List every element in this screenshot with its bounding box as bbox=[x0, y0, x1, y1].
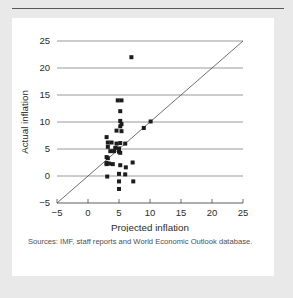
y-axis-title: Actual inflation bbox=[19, 90, 30, 154]
y-tick-label-5: 5 bbox=[45, 143, 50, 154]
source-note-text: Sources: IMF, staff reports and World Ec… bbox=[28, 237, 252, 246]
y-tick-label-25: 25 bbox=[39, 35, 50, 46]
x-tick-label-10: 10 bbox=[145, 207, 156, 218]
source-note: Sources: IMF, staff reports and World Ec… bbox=[28, 236, 264, 247]
chart-svg: −50510152025−50510152025Projected inflat… bbox=[12, 18, 274, 232]
data-point bbox=[123, 172, 127, 176]
data-point bbox=[118, 109, 122, 113]
data-point bbox=[118, 124, 122, 128]
data-point bbox=[124, 165, 128, 169]
y-tick-label-0: 0 bbox=[45, 170, 50, 181]
data-point bbox=[112, 149, 116, 153]
data-point bbox=[107, 162, 111, 166]
data-point bbox=[119, 98, 123, 102]
data-point bbox=[115, 129, 119, 133]
data-point bbox=[118, 151, 122, 155]
data-point bbox=[131, 161, 135, 165]
data-point bbox=[119, 129, 123, 133]
data-point bbox=[142, 126, 146, 130]
data-point bbox=[149, 119, 153, 123]
figure-panel: −50510152025−50510152025Projected inflat… bbox=[12, 18, 274, 276]
top-rule-divider bbox=[12, 8, 284, 9]
y-tick-label-15: 15 bbox=[39, 89, 50, 100]
data-point bbox=[115, 142, 119, 146]
y-tick-label-20: 20 bbox=[39, 62, 50, 73]
page-background: −50510152025−50510152025Projected inflat… bbox=[0, 0, 293, 298]
x-tick-label-20: 20 bbox=[207, 207, 218, 218]
x-tick-label-25: 25 bbox=[238, 207, 249, 218]
data-point bbox=[117, 179, 121, 183]
x-axis-title: Projected inflation bbox=[111, 222, 189, 232]
data-point bbox=[110, 141, 114, 145]
data-point bbox=[117, 187, 121, 191]
data-point bbox=[106, 156, 110, 160]
data-point bbox=[111, 162, 115, 166]
x-tick-label-5: 5 bbox=[116, 207, 121, 218]
data-point bbox=[131, 179, 135, 183]
x-tick-label-0: 0 bbox=[85, 207, 90, 218]
x-tick-label--5: −5 bbox=[52, 207, 63, 218]
data-point bbox=[105, 135, 109, 139]
data-point bbox=[118, 163, 122, 167]
y-tick-label--5: −5 bbox=[39, 197, 50, 208]
data-point bbox=[118, 141, 122, 145]
data-point bbox=[116, 98, 120, 102]
data-point bbox=[108, 149, 112, 153]
data-point bbox=[106, 145, 110, 149]
data-point bbox=[117, 172, 121, 176]
data-point bbox=[123, 142, 127, 146]
data-point bbox=[105, 175, 109, 179]
data-point bbox=[106, 141, 110, 145]
data-point bbox=[129, 55, 133, 59]
x-tick-label-15: 15 bbox=[176, 207, 187, 218]
y-tick-label-10: 10 bbox=[39, 116, 50, 127]
